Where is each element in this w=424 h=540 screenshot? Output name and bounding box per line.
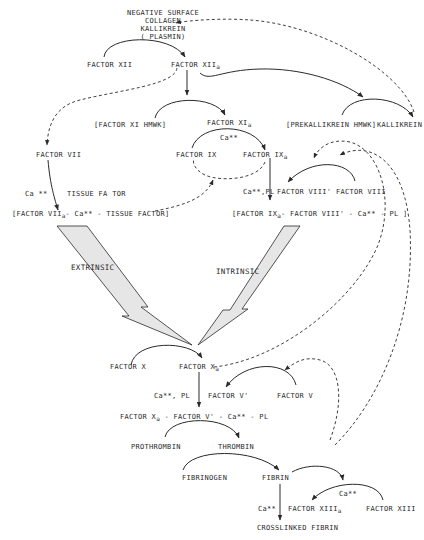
node-kallikrein: KALLIKREIN	[377, 121, 422, 129]
activator-kallikrein: KALLIKREIN	[108, 25, 218, 33]
intrinsic-block-arrow	[198, 226, 300, 345]
dashed-viia-to-ix	[155, 180, 213, 211]
node-intrinsic-complex: [FACTOR IXa- FACTOR VIII' - Ca** - PL ]	[232, 210, 407, 220]
label-ca-crosslink: Ca**	[258, 505, 276, 513]
node-factor-viii-prime: FACTOR VIII'	[277, 188, 331, 196]
arrow-vii-to-viia	[48, 160, 58, 210]
activator-collagen: COLLAGEN	[108, 17, 218, 25]
label-ca-pl-intrinsic: Ca**,PL	[243, 188, 275, 196]
arc-xi-to-xia	[155, 100, 225, 118]
node-factor-xiii: FACTOR XIII	[366, 505, 416, 513]
label-ca-xiii: Ca**	[339, 490, 357, 498]
dashed-xa-to-viii	[214, 141, 385, 367]
node-factor-ix: FACTOR IX	[176, 151, 217, 159]
arc-prothrombin-to-thrombin	[165, 421, 239, 438]
node-fibrin: FIBRIN	[262, 474, 289, 482]
node-factor-xa: FACTOR Xa	[179, 363, 219, 373]
node-factor-xi-complex: [FACTOR XI HMWK]	[94, 121, 166, 129]
node-extrinsic-complex: [FACTOR VIIa- Ca** - TISSUE FACTOR]	[12, 210, 169, 220]
arc-xii-to-xiia	[104, 40, 185, 57]
node-prothrombinase-complex: FACTOR Xa - FACTOR V' - Ca** - PL	[120, 413, 268, 423]
node-factor-v: FACTOR V	[277, 392, 313, 400]
label-intrinsic-pathway: INTRINSIC	[216, 268, 259, 276]
node-factor-ixa: FACTOR IXa	[243, 151, 288, 161]
label-ca-pl-prothrombinase: Ca**, PL	[154, 392, 190, 400]
arc-fibrin-to-xiiia	[292, 466, 343, 480]
node-factor-vii: FACTOR VII	[36, 151, 81, 159]
node-tissue-factor: TISSUE FA TOR	[67, 190, 126, 198]
dashed-xiia-to-vii	[47, 68, 177, 145]
node-factor-v-prime: FACTOR V'	[208, 392, 249, 400]
arc-fibrinogen-to-fibrin	[183, 454, 279, 471]
activator-plasmin: ( PLASMIN)	[108, 33, 218, 41]
label-extrinsic-pathway: EXTRINSIC	[71, 264, 114, 272]
node-thrombin: THROMBIN	[218, 443, 254, 451]
diagram-connectors	[0, 0, 424, 540]
node-prothrombin: PROTHROMBIN	[131, 443, 181, 451]
coagulation-cascade-diagram: NEGATIVE SURFACE COLLAGEN KALLIKREIN ( P…	[0, 0, 424, 540]
node-factor-xiiia: FACTOR XIIIa	[288, 505, 342, 515]
node-factor-viii: FACTOR VIII	[336, 188, 386, 196]
extrinsic-block-arrow	[57, 226, 192, 345]
arc-v-to-vprime	[226, 366, 296, 387]
node-crosslinked-fibrin: CROSSLINKED FIBRIN	[257, 524, 338, 532]
arc-prekallikrein-to-kallikrein	[342, 99, 413, 117]
label-ca-ix: Ca**	[220, 134, 238, 142]
node-factor-xii: FACTOR XII	[87, 61, 132, 69]
label-ca-extrinsic: Ca **	[25, 190, 48, 198]
node-factor-xia: FACTOR XIa	[207, 119, 252, 129]
node-fibrinogen: FIBRINOGEN	[182, 474, 227, 482]
arc-viii-to-viiiprime	[288, 165, 355, 182]
activators-label: NEGATIVE SURFACE COLLAGEN KALLIKREIN ( P…	[108, 9, 218, 41]
node-prekallikrein-complex: [PREKALLIKREIN HMWK]	[286, 121, 376, 129]
activator-negative-surface: NEGATIVE SURFACE	[108, 9, 218, 17]
node-factor-x: FACTOR X	[110, 363, 146, 371]
arc-xiia-to-prekallikrein	[200, 69, 363, 97]
dashed-ixa-loop	[193, 158, 265, 179]
node-factor-xiia: FACTOR XIIa	[171, 61, 220, 71]
